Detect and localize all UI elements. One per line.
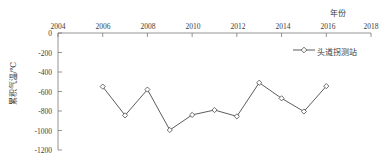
chart-figure: 年份 累积气温/℃ 2004 2006 2008 2010 2012 2014 … <box>0 0 382 162</box>
legend-marker <box>301 47 307 53</box>
series-line-0 <box>103 83 327 130</box>
data-point-2009 <box>167 127 172 132</box>
data-point-2014 <box>279 96 284 101</box>
plot-area <box>0 0 382 162</box>
data-point-2010 <box>190 112 195 117</box>
data-point-2011 <box>212 107 217 112</box>
data-point-2012 <box>234 114 239 119</box>
